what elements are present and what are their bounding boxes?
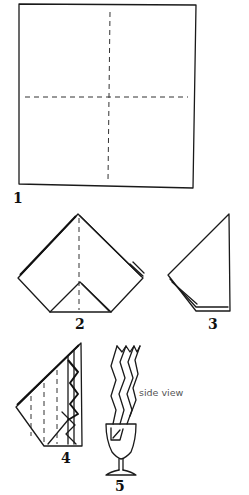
step-1-square-figure [19,4,196,188]
step-2-folded-point-figure [18,214,144,312]
step-5-glass-figure [106,346,140,475]
napkin-folding-diagram: 1 2 3 4 5 side view [0,0,249,495]
step-3-half-fold-figure [168,214,230,311]
side-view-annotation: side view [139,388,183,398]
step-4-pleat-figure [16,343,82,446]
step-5-label: 5 [115,479,125,493]
step-4-label: 4 [61,451,71,465]
step-2-label: 2 [75,317,85,331]
step-3-label: 3 [208,317,218,331]
step-1-label: 1 [13,191,23,205]
diagram-drawing [0,0,249,495]
